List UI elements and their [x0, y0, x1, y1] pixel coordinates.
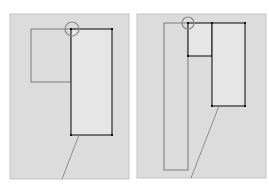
vertex-dot — [111, 134, 113, 136]
vertex-dot — [70, 134, 72, 136]
vertex-dot — [244, 22, 246, 24]
vertex-dot — [111, 28, 113, 30]
light-rect — [164, 23, 188, 170]
light-rect — [31, 29, 71, 82]
vertex-dot — [187, 55, 189, 57]
vertex-dot — [244, 105, 246, 107]
dark-rect — [212, 23, 245, 106]
dark-rect — [71, 29, 112, 135]
vertex-dot — [211, 105, 213, 107]
right-panel — [137, 14, 266, 178]
vertex-dot — [211, 22, 213, 24]
diagram-canvas — [0, 0, 269, 190]
vertex-dot — [187, 22, 189, 24]
vertex-dot — [70, 28, 72, 30]
left-panel — [10, 14, 129, 179]
